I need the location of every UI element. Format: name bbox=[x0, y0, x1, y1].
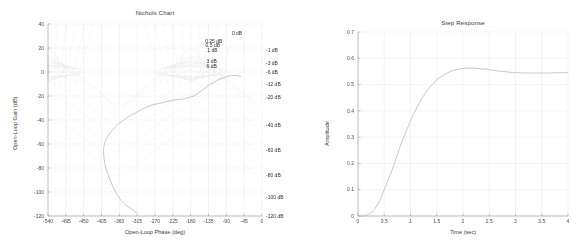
nichols-contour-label: 1 dB bbox=[184, 47, 218, 53]
nichols-y-tick: -40 bbox=[22, 117, 44, 123]
nichols-contour-label: -6 dB bbox=[266, 69, 278, 75]
nichols-contour-label: -12 dB bbox=[266, 81, 281, 87]
step-y-tick: 0.1 bbox=[334, 186, 354, 192]
step-y-tick: 0 bbox=[334, 213, 354, 219]
step-x-tick: 0 bbox=[346, 218, 370, 224]
nichols-contour-label: -100 dB bbox=[266, 194, 284, 200]
nichols-contour-label: 0 dB bbox=[208, 30, 242, 36]
step-x-tick: 4 bbox=[556, 218, 580, 224]
nichols-y-tick: -80 bbox=[22, 165, 44, 171]
nichols-contour-label: -3 dB bbox=[266, 60, 278, 66]
step-y-tick: 0.7 bbox=[334, 29, 354, 35]
nichols-contour-label: -60 dB bbox=[266, 147, 281, 153]
step-x-tick: 1.5 bbox=[425, 218, 449, 224]
step-y-tick: 0.2 bbox=[334, 160, 354, 166]
step-y-tick: 0.6 bbox=[334, 55, 354, 61]
nichols-y-tick: -60 bbox=[22, 141, 44, 147]
step-x-tick: 2.5 bbox=[477, 218, 501, 224]
step-x-tick: 3.5 bbox=[530, 218, 554, 224]
step-y-tick: 0.4 bbox=[334, 108, 354, 114]
step-x-tick: 3 bbox=[504, 218, 528, 224]
nichols-contour-label: -1 dB bbox=[266, 47, 278, 53]
nichols-y-tick: -120 bbox=[22, 213, 44, 219]
step-y-tick: 0.5 bbox=[334, 81, 354, 87]
step-y-tick: 0.3 bbox=[334, 134, 354, 140]
step-x-tick: 2 bbox=[451, 218, 475, 224]
nichols-y-tick: 40 bbox=[22, 21, 44, 27]
step-x-tick: 1 bbox=[399, 218, 423, 224]
nichols-contour-label: 6 dB bbox=[183, 63, 217, 69]
nichols-y-tick: -100 bbox=[22, 189, 44, 195]
nichols-contour-label: -120 dB bbox=[266, 213, 284, 219]
nichols-plot-area bbox=[0, 0, 310, 252]
nichols-y-tick: 20 bbox=[22, 45, 44, 51]
step-response-panel: Step Response Amplitude Time (sec) 00.51… bbox=[310, 0, 583, 252]
nichols-contour-label: -20 dB bbox=[266, 94, 281, 100]
nichols-contour-label: -80 dB bbox=[266, 172, 281, 178]
step-x-tick: 0.5 bbox=[372, 218, 396, 224]
nichols-contour-label: -40 dB bbox=[266, 122, 281, 128]
nichols-y-tick: -20 bbox=[22, 93, 44, 99]
figure-canvas: Nichols Chart Open-Loop Gain (dB) Open-L… bbox=[0, 0, 583, 252]
nichols-chart-panel: Nichols Chart Open-Loop Gain (dB) Open-L… bbox=[0, 0, 310, 252]
nichols-x-tick: 0 bbox=[248, 218, 276, 224]
nichols-y-tick: 0 bbox=[22, 69, 44, 75]
